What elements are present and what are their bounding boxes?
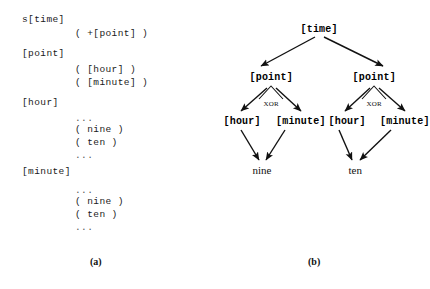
grammar-rule: ( nine ) (75, 196, 124, 207)
tree-edge-hour-r-to-leaf-ten (339, 130, 352, 160)
tree-leaf-leaf-nine: nine (253, 164, 272, 176)
tree-edge-group (241, 37, 405, 160)
tree-node-root: [time] (301, 24, 338, 35)
tree-leaf-leaf-ten: ten (349, 164, 362, 176)
panel-a-grammar: s[time]( +[point] )[point]( [hour] )( [m… (0, 0, 215, 289)
tree-node-min-l: [minute] (276, 116, 326, 127)
tree-node-min-r: [minute] (380, 116, 430, 127)
tree-edges-svg (215, 0, 430, 289)
tree-node-hour-r: [hour] (329, 116, 366, 127)
grammar-rule: ( nine ) (75, 124, 124, 135)
tree-edge-min-r-to-leaf-ten (360, 130, 391, 160)
xor-arc-group (259, 86, 386, 99)
grammar-category: [minute] (22, 166, 71, 177)
caption-a: (a) (90, 256, 102, 267)
grammar-ellipsis: ... (75, 222, 93, 233)
xor-label-xor-left: XOR (264, 100, 279, 108)
tree-edge-min-l-to-leaf-nine (266, 130, 285, 160)
grammar-rule: ( ten ) (75, 137, 118, 148)
caption-b: (b) (308, 256, 320, 267)
tree-edge-root-to-point-r (324, 37, 383, 66)
grammar-ellipsis: ... (75, 185, 93, 196)
tree-node-hour-l: [hour] (224, 116, 261, 127)
grammar-ellipsis: ... (75, 113, 93, 124)
tree-edge-root-to-point-l (261, 37, 315, 66)
tree-node-point-l: [point] (250, 72, 293, 83)
grammar-category: [hour] (22, 97, 59, 108)
xor-label-xor-right: XOR (367, 100, 382, 108)
grammar-rule: ( [hour] ) (75, 64, 136, 75)
grammar-category: s[time] (22, 14, 65, 25)
tree-edge-point-l-to-min-l (276, 88, 301, 111)
panel-b-derivation-tree: [time][point][point][hour][minute][hour]… (215, 0, 430, 289)
grammar-rule: ( ten ) (75, 209, 118, 220)
figure-root: s[time]( +[point] )[point]( [hour] )( [m… (0, 0, 430, 289)
tree-edge-hour-l-to-leaf-nine (241, 130, 259, 160)
grammar-ellipsis: ... (75, 150, 93, 161)
tree-edge-point-r-to-min-r (379, 88, 405, 111)
grammar-rule: ( [minute] ) (75, 77, 148, 88)
tree-node-point-r: [point] (353, 72, 396, 83)
grammar-rule: ( +[point] ) (75, 28, 148, 39)
grammar-category: [point] (22, 48, 65, 59)
